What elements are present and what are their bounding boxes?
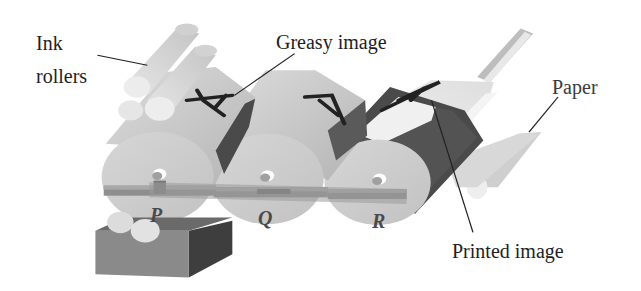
ink-trough	[95, 212, 232, 278]
ink-rollers-label-line2: rollers	[36, 66, 87, 86]
roller-r-label: R	[372, 211, 385, 231]
ink-rollers-label-line1: Ink	[36, 33, 63, 53]
ink-rollers-leader	[97, 55, 147, 65]
paper-leader	[529, 97, 558, 132]
diagram-stage: Ink rollers Greasy image Paper Printed i…	[0, 0, 641, 291]
greasy-image-label: Greasy image	[276, 32, 387, 52]
paper-label: Paper	[552, 77, 598, 97]
roller-q-label: Q	[258, 208, 272, 228]
roller-p-label: P	[150, 205, 162, 225]
printed-image-label: Printed image	[452, 241, 564, 261]
